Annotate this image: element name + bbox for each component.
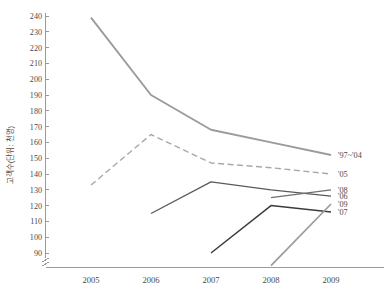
y-tick-label-120: 120 [30,202,42,211]
y-tick-label-160: 160 [30,138,42,147]
x-tick-label-2006: 2006 [142,275,160,285]
y-tick-label-200: 200 [30,75,42,84]
x-tick-label-2009: 2009 [322,275,339,285]
y-tick-label-210: 210 [30,59,42,68]
y-axis-tick-labels: 9010011012013014015016017018019020021022… [30,12,42,258]
x-tick-label-2005: 2005 [82,275,99,285]
y-tick-label-100: 100 [30,233,42,242]
line-chart: 9010011012013014015016017018019020021022… [0,0,386,301]
x-tick-label-2007: 2007 [202,275,220,285]
axis-break-mark-lower [42,262,49,266]
y-tick-label-130: 130 [30,186,42,195]
x-axis: 20052006200720082009 [46,268,385,286]
y-axis: 9010011012013014015016017018019020021022… [5,12,49,266]
legend-label-07: '07 [338,208,348,217]
legend-label-05: '05 [338,170,348,179]
y-tick-label-240: 240 [30,12,42,21]
legend-label-9704: '97~'04 [338,151,362,160]
series-line-05 [91,135,331,186]
y-axis-title: 고객수(단위: 천명) [5,125,15,184]
legend: '97~'04'05'08'06'09'07 [338,151,362,217]
series-line-09 [271,204,331,266]
y-tick-label-170: 170 [30,123,42,132]
y-tick-label-150: 150 [30,154,42,163]
y-tick-label-180: 180 [30,107,42,116]
y-tick-label-90: 90 [34,249,42,258]
x-axis-tick-labels: 20052006200720082009 [82,275,339,285]
series-line-07 [211,206,331,253]
series-lines [91,18,331,266]
x-tick-label-2008: 2008 [262,275,279,285]
y-tick-label-190: 190 [30,91,42,100]
y-tick-label-110: 110 [30,217,42,226]
y-tick-label-220: 220 [30,44,42,53]
y-axis-ticks [46,16,50,253]
y-tick-label-140: 140 [30,170,42,179]
series-line-9704 [91,18,331,155]
chart-canvas: 9010011012013014015016017018019020021022… [0,0,386,301]
axis-break-mark-upper [42,258,49,262]
y-tick-label-230: 230 [30,28,42,37]
